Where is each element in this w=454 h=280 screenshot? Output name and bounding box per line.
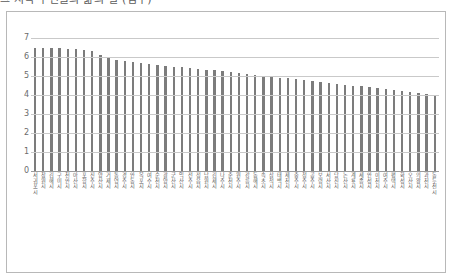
x-axis-label: 강릉시 [244, 173, 250, 269]
x-label-slot: 천안시 [64, 173, 72, 269]
x-axis-label: 나주시 [220, 173, 226, 269]
x-axis-label: 동해시 [252, 173, 258, 269]
bar[interactable] [279, 78, 281, 171]
x-axis-label: 여주시 [383, 173, 389, 269]
x-label-slot: 김제시 [210, 173, 218, 269]
bar[interactable] [205, 70, 207, 171]
bar[interactable] [189, 68, 191, 171]
x-label-slot: 이천시 [374, 173, 382, 269]
bar[interactable] [287, 78, 289, 171]
bar[interactable] [303, 80, 305, 171]
x-axis-label: 정읍시 [195, 173, 201, 269]
bar[interactable] [238, 73, 240, 171]
chart-title-clipped: 그 지역 주민들의 삶의 질 (점수) [0, 0, 260, 6]
bar[interactable] [156, 65, 158, 171]
x-axis-label: 계룡시 [350, 173, 356, 269]
x-label-slot: 김해시 [47, 173, 55, 269]
x-axis-label: 경주시 [122, 173, 128, 269]
x-label-slot: 서귀포시 [31, 173, 39, 269]
x-axis-label: 군산시 [171, 173, 177, 269]
bar[interactable] [164, 66, 166, 171]
bar[interactable] [124, 61, 126, 171]
bar[interactable] [254, 75, 256, 171]
y-tick-label: 3 [15, 110, 29, 118]
y-tick-label: 2 [15, 129, 29, 137]
bar[interactable] [181, 67, 183, 171]
gridline [31, 114, 439, 115]
x-label-slot: 서산시 [325, 173, 333, 269]
x-axis-label: 이천시 [375, 173, 381, 269]
x-label-slot: 여수시 [145, 173, 153, 269]
bar[interactable] [246, 74, 248, 171]
chart-page: 그 지역 주민들의 삶의 질 (점수) 01234567 서귀포시창원시김해시구… [0, 0, 454, 280]
bar[interactable] [368, 87, 370, 171]
x-axis-label: 통영시 [114, 173, 120, 269]
gridline [31, 76, 439, 77]
bar[interactable] [213, 70, 215, 171]
x-label-slot: 진주시 [88, 173, 96, 269]
y-tick-label: 1 [15, 148, 29, 156]
gridline [31, 95, 439, 96]
x-label-slot: 광양시 [162, 173, 170, 269]
x-label-slot: 전주시 [186, 173, 194, 269]
y-axis: 01234567 [15, 38, 29, 171]
bar[interactable] [148, 64, 150, 171]
gridline [31, 133, 439, 134]
x-axis-label: 화성시 [399, 173, 405, 269]
y-tick-label: 5 [15, 72, 29, 80]
bar[interactable] [344, 85, 346, 171]
bar[interactable] [360, 86, 362, 171]
x-axis-label: 익산시 [179, 173, 185, 269]
x-label-slot: 거제시 [104, 173, 112, 269]
bar[interactable] [132, 62, 134, 171]
bar[interactable] [270, 77, 272, 171]
x-label-slot: 화성시 [398, 173, 406, 269]
x-label-slot: 정읍시 [194, 173, 202, 269]
x-label-slot: 포항시 [80, 173, 88, 269]
x-axis-label: 목포시 [138, 173, 144, 269]
bar[interactable] [262, 76, 264, 171]
x-label-slot: 보령시 [316, 173, 324, 269]
gridline [31, 38, 439, 39]
bar[interactable] [393, 90, 395, 171]
x-label-slot: 통영시 [113, 173, 121, 269]
bar[interactable] [385, 89, 387, 171]
bar[interactable] [230, 72, 232, 171]
bar[interactable] [140, 63, 142, 171]
x-label-slot: 여주시 [382, 173, 390, 269]
x-axis-label: 오산시 [407, 173, 413, 269]
x-axis-label: 제천시 [285, 173, 291, 269]
x-label-slot: 춘천시 [227, 173, 235, 269]
bar[interactable] [91, 51, 93, 171]
bar[interactable] [221, 71, 223, 171]
bar[interactable] [401, 91, 403, 171]
x-label-slot: 의왕시 [414, 173, 422, 269]
x-label-slot: 창원시 [39, 173, 47, 269]
x-axis-label: 아산시 [73, 173, 79, 269]
bar[interactable] [336, 84, 338, 171]
x-label-slot: 오산시 [406, 173, 414, 269]
x-axis-label: 세종시 [358, 173, 364, 269]
x-axis-label: 과천시 [424, 173, 430, 269]
x-axis-label: 창원시 [40, 173, 46, 269]
bar[interactable] [352, 86, 354, 172]
x-label-slot: 세종시 [357, 173, 365, 269]
plot-area [31, 38, 439, 171]
x-axis-label: 태백시 [277, 173, 283, 269]
x-label-slot: 양산시 [96, 173, 104, 269]
x-axis-label: 당진시 [334, 173, 340, 269]
x-label-slot: 청주시 [300, 173, 308, 269]
x-label-slot: 순천시 [153, 173, 161, 269]
x-label-slot: 목포시 [137, 173, 145, 269]
x-axis-label: 평택시 [391, 173, 397, 269]
bar[interactable] [376, 88, 378, 171]
x-axis-label: 서귀포시 [32, 173, 38, 269]
x-label-slot: 익산시 [178, 173, 186, 269]
x-axis-label: 속초시 [260, 173, 266, 269]
x-axis-label: 포항시 [81, 173, 87, 269]
bar[interactable] [409, 92, 411, 171]
bar[interactable] [173, 67, 175, 172]
bar[interactable] [197, 69, 199, 171]
y-tick-label: 6 [15, 53, 29, 61]
bar[interactable] [295, 79, 297, 171]
